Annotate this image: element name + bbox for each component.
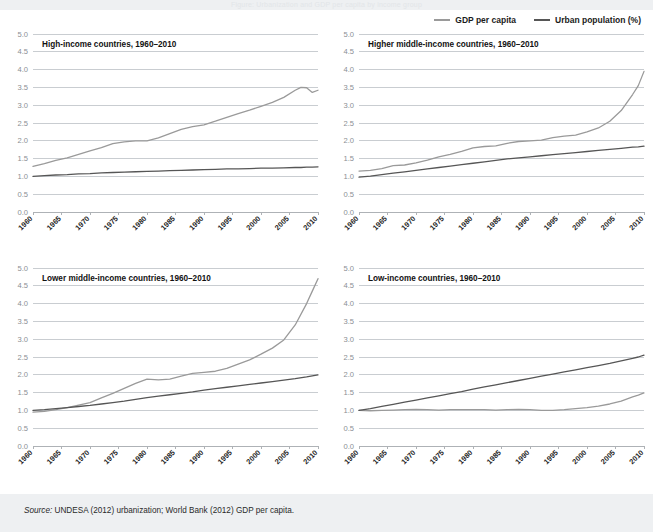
x-tick-label: 2010 [301,214,319,232]
y-tick-label: 3.5 [17,83,28,92]
source-line: Source: UNDESA (2012) urbanization; Worl… [24,506,294,515]
x-tick-label: 2010 [301,448,319,466]
y-tick-label: 5.0 [17,264,28,273]
x-tick-label: 1965 [45,214,63,232]
x-tick-label: 1985 [159,448,177,466]
y-tick-label: 1.0 [17,406,28,415]
x-tick-label: 2010 [627,214,645,232]
chart-high-income: 5.04.54.03.53.02.52.01.51.00.50.01960196… [0,26,326,260]
y-tick-label: 5.0 [343,264,354,273]
y-tick-label: 1.5 [17,154,28,163]
series-line [359,355,644,410]
panel-lower-middle-income: Lower middle-income countries, 1960–2010… [0,260,326,494]
y-tick-label: 4.0 [343,65,354,74]
y-tick-label: 3.5 [343,83,354,92]
panel-title-higher-middle-income: Higher middle-income countries, 1960–201… [368,40,539,49]
y-tick-label: 0.5 [17,190,28,199]
panel-title-high-income: High-income countries, 1960–2010 [42,40,176,49]
y-tick-label: 0.5 [343,424,354,433]
legend-item-urban: Urban population (%) [534,15,641,25]
y-tick-label: 4.5 [17,47,28,56]
chart-higher-middle-income: 5.04.54.03.53.02.52.01.51.00.50.01960196… [326,26,652,260]
series-line [359,146,644,177]
x-tick-label: 1995 [216,448,234,466]
x-tick-label: 1970 [399,214,417,232]
y-tick-label: 2.5 [343,119,354,128]
panel-high-income: High-income countries, 1960–2010 5.04.54… [0,26,326,260]
x-tick-label: 1985 [485,448,503,466]
x-tick-label: 2000 [570,214,588,232]
x-tick-label: 1970 [73,448,91,466]
x-tick-label: 1965 [371,448,389,466]
y-tick-label: 4.0 [343,299,354,308]
source-footer: Source: UNDESA (2012) urbanization; Worl… [0,494,653,532]
legend-swatch-urban [534,19,550,21]
panel-grid: High-income countries, 1960–2010 5.04.54… [0,26,653,494]
panel-title-lower-middle-income: Lower middle-income countries, 1960–2010 [42,274,211,283]
y-tick-label: 1.5 [343,388,354,397]
x-tick-label: 1965 [371,214,389,232]
x-tick-label: 1975 [428,214,446,232]
x-tick-label: 1990 [187,448,205,466]
x-tick-label: 1975 [102,448,120,466]
y-tick-label: 2.5 [17,353,28,362]
x-tick-label: 1995 [542,448,560,466]
y-tick-label: 4.5 [343,281,354,290]
x-tick-label: 1990 [187,214,205,232]
x-tick-label: 1965 [45,448,63,466]
source-text: UNDESA (2012) urbanization; World Bank (… [55,506,295,515]
x-tick-label: 1990 [513,214,531,232]
x-tick-label: 1985 [485,214,503,232]
y-tick-label: 3.0 [17,335,28,344]
y-tick-label: 3.5 [343,317,354,326]
legend-label-gdp: GDP per capita [455,15,516,25]
x-tick-label: 1985 [159,214,177,232]
x-tick-label: 2010 [627,448,645,466]
y-tick-label: 1.0 [343,172,354,181]
y-tick-label: 3.0 [343,335,354,344]
y-tick-label: 2.0 [17,370,28,379]
x-tick-label: 1960 [342,448,360,466]
legend-swatch-gdp [434,19,450,21]
y-tick-label: 3.0 [343,101,354,110]
x-tick-label: 2005 [599,214,617,232]
x-tick-label: 1960 [342,214,360,232]
banner-ghost-title: Figure: Urbanization and GDP per capita … [0,0,653,10]
series-line [359,393,644,411]
x-tick-label: 1960 [16,214,34,232]
series-line [33,167,318,177]
source-label: Source: [24,506,52,515]
top-banner: Figure: Urbanization and GDP per capita … [0,0,653,10]
y-tick-label: 1.5 [17,388,28,397]
panel-higher-middle-income: Higher middle-income countries, 1960–201… [326,26,653,260]
y-tick-label: 3.0 [17,101,28,110]
x-tick-label: 2000 [244,448,262,466]
panel-title-low-income: Low-income countries, 1960–2010 [368,274,500,283]
y-tick-label: 1.0 [17,172,28,181]
y-tick-label: 2.5 [17,119,28,128]
x-tick-label: 1990 [513,448,531,466]
legend-label-urban: Urban population (%) [555,15,641,25]
x-tick-label: 1980 [130,214,148,232]
x-tick-label: 1975 [102,214,120,232]
y-tick-label: 2.0 [343,136,354,145]
x-tick-label: 1970 [399,448,417,466]
y-tick-label: 1.5 [343,154,354,163]
x-tick-label: 1995 [216,214,234,232]
x-tick-label: 1975 [428,448,446,466]
series-line [33,87,318,166]
chart-lower-middle-income: 5.04.54.03.53.02.52.01.51.00.50.01960196… [0,260,326,494]
series-line [359,71,644,171]
y-tick-label: 0.5 [343,190,354,199]
y-tick-label: 2.0 [17,136,28,145]
x-tick-label: 1970 [73,214,91,232]
x-tick-label: 1980 [456,214,474,232]
y-tick-label: 3.5 [17,317,28,326]
chart-low-income: 5.04.54.03.53.02.52.01.51.00.50.01960196… [326,260,652,494]
chart-legend: GDP per capita Urban population (%) [434,15,641,25]
y-tick-label: 4.0 [17,65,28,74]
x-tick-label: 2005 [273,448,291,466]
x-tick-label: 1960 [16,448,34,466]
legend-item-gdp: GDP per capita [434,15,516,25]
y-tick-label: 4.5 [343,47,354,56]
